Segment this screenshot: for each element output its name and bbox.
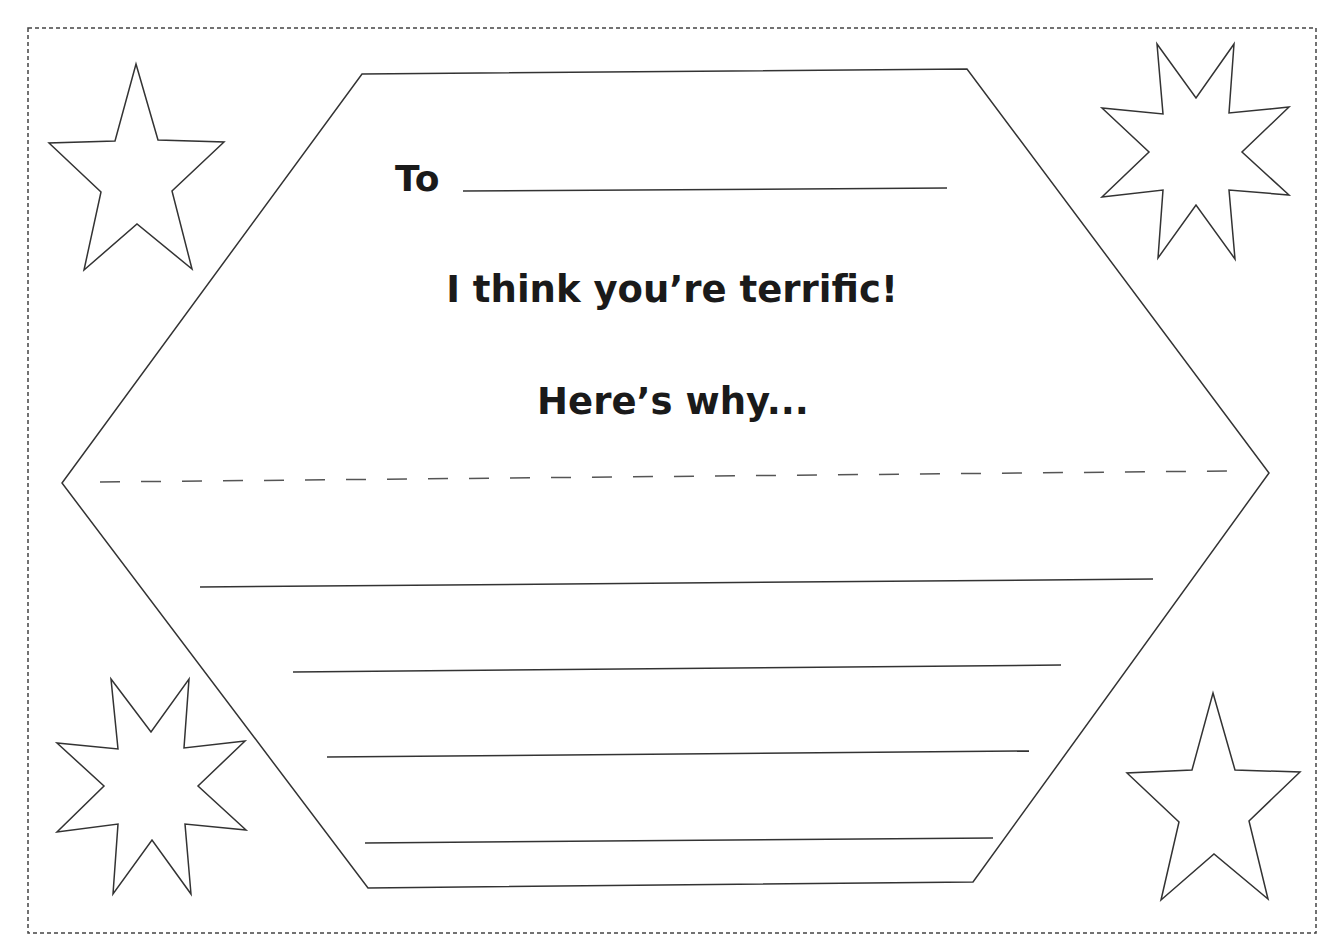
to-label: To (395, 158, 440, 199)
reason-line-1[interactable] (200, 579, 1153, 587)
five-point-star-icon (1127, 693, 1300, 900)
card-headline: I think you’re terrific! (0, 268, 1336, 311)
reason-line-4[interactable] (365, 838, 993, 843)
eight-point-star-icon (1102, 44, 1289, 259)
to-name-line[interactable] (463, 188, 947, 191)
cut-border (28, 28, 1316, 933)
reason-line-3[interactable] (327, 751, 1029, 757)
eight-point-star-icon (57, 679, 246, 894)
hexagon-card-outline (62, 69, 1269, 888)
five-point-star-icon (49, 64, 224, 270)
card-canvas (0, 0, 1336, 941)
card-subline: Here’s why... (0, 380, 1336, 423)
fold-line (100, 471, 1228, 482)
reason-line-2[interactable] (293, 665, 1061, 672)
